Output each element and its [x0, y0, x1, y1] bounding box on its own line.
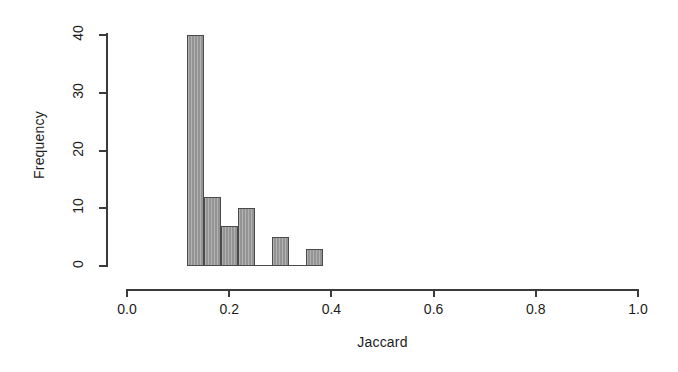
histogram-bar	[204, 197, 221, 266]
x-axis-title: Jaccard	[127, 334, 638, 350]
x-tick-label: 0.4	[301, 301, 361, 317]
x-tick-mark	[433, 289, 435, 297]
histogram-bar	[221, 226, 238, 266]
x-tick-label: 0.8	[506, 301, 566, 317]
histogram-plot: Frequency 010203040 0.00.20.40.60.81.0 J…	[0, 0, 678, 372]
y-tick-mark	[99, 150, 107, 152]
x-tick-label: 0.6	[404, 301, 464, 317]
x-tick-label: 1.0	[608, 301, 668, 317]
y-tick-mark	[99, 92, 107, 94]
y-tick-label-text: 40	[70, 13, 86, 53]
y-axis-title: Frequency	[26, 0, 52, 290]
y-tick-mark	[99, 265, 107, 267]
x-axis-line	[127, 289, 638, 291]
x-tick-label: 0.0	[97, 301, 157, 317]
x-tick-mark	[637, 289, 639, 297]
y-tick-label: 10	[58, 198, 98, 218]
histogram-bar	[238, 208, 255, 266]
x-tick-mark	[535, 289, 537, 297]
y-tick-label: 20	[58, 141, 98, 161]
y-tick-label-text: 30	[70, 71, 86, 111]
x-tick-mark	[126, 289, 128, 297]
y-tick-label: 0	[58, 256, 98, 276]
y-tick-label-text: 10	[70, 186, 86, 226]
y-tick-mark	[99, 207, 107, 209]
y-tick-mark	[99, 34, 107, 36]
x-tick-mark	[228, 289, 230, 297]
histogram-bar	[187, 35, 204, 266]
bars-baseline	[187, 265, 323, 266]
x-tick-label: 0.2	[199, 301, 259, 317]
histogram-bar	[306, 249, 323, 266]
histogram-bar	[272, 237, 289, 266]
y-tick-label: 30	[58, 83, 98, 103]
y-tick-label: 40	[58, 25, 98, 45]
y-tick-label-text: 0	[70, 244, 86, 284]
y-tick-label-text: 20	[70, 129, 86, 169]
x-tick-mark	[330, 289, 332, 297]
